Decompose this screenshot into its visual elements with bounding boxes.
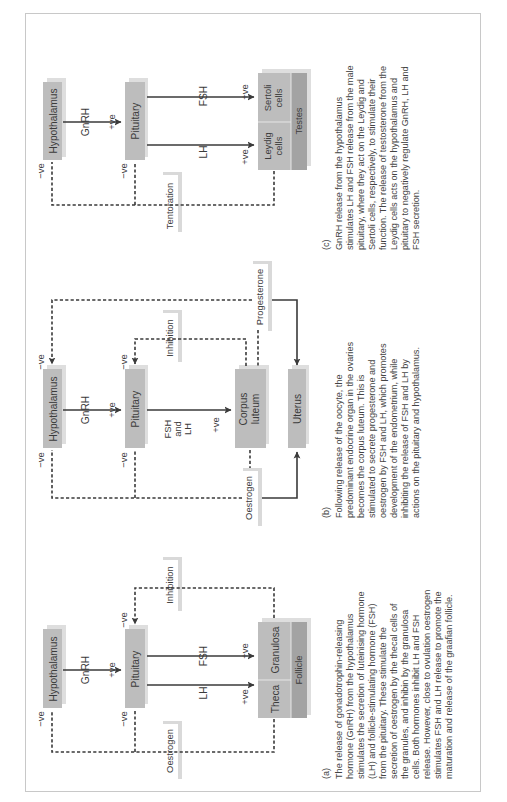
inhibition-label-box: Inhibition xyxy=(163,310,182,362)
node-pituitary: Pituitary xyxy=(125,625,148,708)
fsh-sign: +ve xyxy=(239,643,250,658)
gnrh-sign: +ve xyxy=(106,114,117,129)
luteum-label: luteum xyxy=(250,394,261,425)
inhibition-feedback-line xyxy=(135,339,246,366)
oestrogen-label: Oestrogen xyxy=(164,729,175,773)
fsh-label: FSH xyxy=(198,86,209,106)
svg-text:stimulates the secretion of lu: stimulates the secretion of luteinising … xyxy=(356,591,366,779)
fsh-label: FSH xyxy=(198,646,209,666)
follicle-label: Follicle xyxy=(293,655,304,684)
lh-sign: +ve xyxy=(239,149,250,164)
neg-pit-top-label: −ve xyxy=(118,354,129,369)
testes-label: Testes xyxy=(293,107,304,134)
progesterone-feedback-line xyxy=(52,300,252,364)
lh-label: LH xyxy=(182,423,193,435)
inhibition-label: Inhibition xyxy=(164,319,175,357)
panel-b-caption: Following release of the oocyte, the pre… xyxy=(334,342,421,518)
svg-text:cells. Both hormones inhibit L: cells. Both hormones inhibit LH and FSH xyxy=(411,615,421,779)
oestrogen-label-box: Oestrogen xyxy=(163,721,182,779)
neg-hypo-label: −ve xyxy=(35,711,46,726)
gnrh-sign: +ve xyxy=(106,402,117,417)
corpus-label: Corpus xyxy=(238,393,249,426)
node-follicle: Granulosa Theca Follicle xyxy=(258,618,311,718)
svg-text:stimulates FSH and LH release: stimulates FSH and LH release to promote… xyxy=(433,591,443,779)
svg-text:inhibiting the release of FSH: inhibiting the release of FSH and LH by xyxy=(400,359,410,518)
svg-text:Sertoli cells, respectively, t: Sertoli cells, respectively, to stimulat… xyxy=(367,79,377,250)
svg-text:actions on the pituitary and h: actions on the pituitary and hypothalamu… xyxy=(411,347,421,518)
oestrogen-label: Oestrogen xyxy=(243,476,254,520)
hypothalamus-label: Hypothalamus xyxy=(48,376,59,441)
svg-text:GnRH release from the hypothal: GnRH release from the hypothalamus xyxy=(334,96,344,250)
svg-text:hormone (GnRH) from the hypoth: hormone (GnRH) from the hypothalamus xyxy=(345,613,355,779)
tentoration-label: Tentoration xyxy=(164,183,175,229)
neg-pit-bottom-label: −ve xyxy=(118,711,129,726)
panel-b-label: (b) xyxy=(321,507,331,518)
svg-text:release. However, close to ovu: release. However, close to ovulation oes… xyxy=(422,590,432,779)
panel-c-label: (c) xyxy=(321,239,331,250)
panel-a-label: (a) xyxy=(321,768,331,779)
sertoli-label: Sertoli xyxy=(262,85,273,112)
svg-text:stimulated to secrete progeste: stimulated to secrete progesterone and xyxy=(367,360,377,518)
fsh-lh-sign: +ve xyxy=(210,417,221,432)
pituitary-label: Pituitary xyxy=(130,390,141,428)
svg-text:pituitary to negatively regula: pituitary to negatively regulate GnRH, L… xyxy=(400,66,410,250)
oestrogen-to-uterus-arrow xyxy=(262,452,297,498)
theca-label: Theca xyxy=(270,685,281,714)
progesterone-label-box: Progesterone xyxy=(253,261,272,331)
gnrh-sign: +ve xyxy=(106,662,117,677)
inhibition-label: Inhibition xyxy=(164,566,175,604)
lh-label: LH xyxy=(198,145,209,158)
progesterone-label: Progesterone xyxy=(254,269,265,325)
granulosa-label: Granulosa xyxy=(270,626,281,673)
node-uterus: Uterus xyxy=(288,365,309,448)
hypothalamus-label: Hypothalamus xyxy=(48,88,59,153)
sertoli-label-2: cells xyxy=(273,88,284,107)
neg-pit-label: −ve xyxy=(118,163,129,178)
svg-text:pituitary, where they act on t: pituitary, where they act on the Leydig … xyxy=(356,79,366,250)
neg-hypo-label: −ve xyxy=(35,163,46,178)
leydig-label-2: cells xyxy=(273,136,284,155)
endocrine-diagram-figure: Hypothalamus Pituitary Leydig cells Sert… xyxy=(0,0,507,802)
svg-text:The release of gonadotrophin-r: The release of gonadotrophin-releasing xyxy=(334,620,344,779)
node-hypothalamus: Hypothalamus xyxy=(43,365,66,448)
svg-text:becomes the corpus luteum. Thi: becomes the corpus luteum. This is xyxy=(356,374,366,518)
svg-text:from the pituitary. These stim: from the pituitary. These stimulate the xyxy=(378,627,388,779)
hypothalamus-label: Hypothalamus xyxy=(48,636,59,701)
panel-c-caption: GnRH release from the hypothalamus stimu… xyxy=(334,65,421,250)
leydig-label: Leydig xyxy=(262,132,273,160)
node-pituitary: Pituitary xyxy=(125,365,148,448)
node-testes: Leydig cells Sertoli cells Testes xyxy=(258,69,311,170)
inhibition-label-box: Inhibition xyxy=(163,557,182,611)
uterus-label: Uterus xyxy=(292,394,303,424)
inhibition-feedback-line xyxy=(135,588,274,624)
panel-a: Hypothalamus Pituitary Granulosa Theca F… xyxy=(35,557,454,779)
gnrh-label: GnRH xyxy=(80,396,91,424)
gnrh-label: GnRH xyxy=(80,656,91,684)
panel-c: Hypothalamus Pituitary Leydig cells Sert… xyxy=(35,65,421,250)
progesterone-to-uterus-arrow xyxy=(272,300,297,365)
svg-text:development of the endometrium: development of the endometrium, while xyxy=(389,359,399,518)
node-pituitary: Pituitary xyxy=(125,78,148,160)
svg-text:the granules, and inhibin by t: the granules, and inhibin by the granulo… xyxy=(400,609,410,779)
gnrh-label: GnRH xyxy=(80,108,91,136)
svg-text:oestrogen by FSH and LH, which: oestrogen by FSH and LH, which promotes xyxy=(378,343,388,518)
neg-pit-top-label: −ve xyxy=(118,612,129,627)
node-corpus-luteum: Corpus luteum xyxy=(235,365,269,448)
neg-hypo-top-label: −ve xyxy=(35,354,46,369)
svg-text:FSH secretion.: FSH secretion. xyxy=(411,190,421,250)
svg-text:stimulates LH and FSH release: stimulates LH and FSH release from the m… xyxy=(345,65,355,250)
oestrogen-feedback-line xyxy=(52,450,242,498)
panel-b: Hypothalamus Pituitary Corpus luteum Ute… xyxy=(35,261,421,526)
svg-text:Leydig cells acts on the hypot: Leydig cells acts on the hypothalamus an… xyxy=(389,78,399,250)
panel-a-caption: The release of gonadotrophin-releasing h… xyxy=(334,590,454,779)
node-hypothalamus: Hypothalamus xyxy=(43,78,66,160)
lh-label: LH xyxy=(198,686,209,699)
svg-text:function. The release of testo: function. The release of testosterone fr… xyxy=(378,66,388,250)
neg-hypo-bottom-label: −ve xyxy=(35,452,46,467)
lh-sign: +ve xyxy=(239,689,250,704)
pituitary-label: Pituitary xyxy=(130,102,141,140)
fsh-sign: +ve xyxy=(239,84,250,99)
tentoration-label-box: Tentoration xyxy=(163,172,182,232)
neg-pit-bottom-label: −ve xyxy=(118,452,129,467)
svg-text:maturation and release of the: maturation and release of the graafian f… xyxy=(444,594,454,779)
